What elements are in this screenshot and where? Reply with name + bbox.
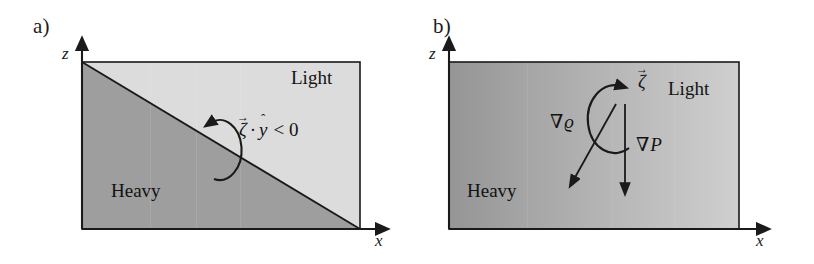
pressure-gradient-label-b: ∇P [636,135,662,154]
x-axis-label-b: x [756,231,764,251]
y-hat-symbol-a: ˆy [259,120,267,139]
nabla-glyph: ∇ [550,111,563,132]
z-axis-label-a: z [62,44,69,64]
vec-arrow-glyph: → [636,63,648,75]
heavy-region-label-a: Heavy [111,180,161,202]
light-region-label-b: Light [668,78,709,100]
x-axis-label-a: x [375,231,383,251]
zeta-vector-symbol-a: →ζ [239,120,247,139]
panel-a-graphics [0,0,407,264]
vorticity-equation-a: →ζ·ˆy< 0 [239,120,298,139]
vec-arrow-glyph: → [237,111,249,123]
relation-glyph: < 0 [273,119,298,140]
figure-root: a) [0,0,814,264]
cdot-glyph: · [250,119,256,140]
z-axis-label-b: z [429,44,436,64]
hat-glyph: ˆ [261,112,265,125]
vorticity-symbol-label-b: →ζ [638,72,646,91]
nabla-glyph: ∇ [636,134,649,155]
density-gradient-label-b: ∇ϱ [550,112,574,131]
light-region-label-a: Light [291,67,332,89]
varrho-glyph: ϱ [564,111,574,132]
zeta-vector-symbol-b: →ζ [638,72,646,91]
p-glyph: P [650,134,662,155]
panel-a: a) [0,0,407,264]
panel-b-graphics [407,0,814,264]
heavy-region-label-b: Heavy [467,180,517,202]
panel-b: b) [407,0,814,264]
